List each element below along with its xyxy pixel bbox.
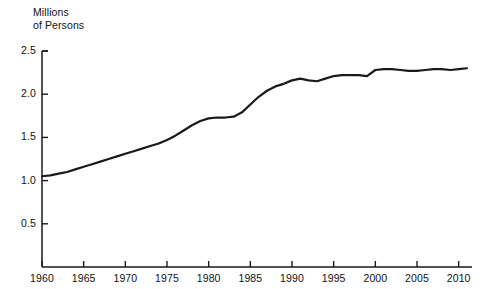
y-tick-label: 1.5 [6,130,36,142]
x-tick-label: 1995 [317,272,351,284]
x-tick-label: 2000 [358,272,392,284]
tick-marks-group [42,51,459,267]
x-tick-label: 1980 [192,272,226,284]
data-series-line [42,68,467,176]
y-tick-label: 2.0 [6,87,36,99]
y-tick-label: 0.5 [6,217,36,229]
x-tick-label: 2005 [400,272,434,284]
x-tick-label: 1985 [233,272,267,284]
x-tick-label: 1975 [150,272,184,284]
x-tick-label: 1970 [108,272,142,284]
x-tick-label: 1990 [275,272,309,284]
x-tick-label: 2010 [442,272,476,284]
y-tick-label: 1.0 [6,174,36,186]
x-tick-label: 1965 [67,272,101,284]
x-tick-label: 1960 [25,272,59,284]
line-chart: Millions of Persons 0.51.01.52.02.5 1960… [0,0,484,289]
y-tick-label: 2.5 [6,44,36,56]
chart-plot-area [0,0,484,289]
